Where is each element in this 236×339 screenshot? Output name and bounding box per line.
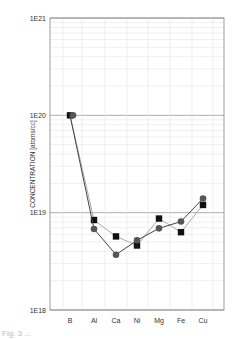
x-tick-label: Ca: [112, 317, 121, 324]
y-axis-label: CONCENTRATION [atoms/cc]: [29, 120, 37, 208]
circle-marker: [178, 218, 185, 225]
y-tick-label: 1E20: [30, 112, 46, 119]
x-tick-label: Ni: [134, 317, 141, 324]
x-tick-label: Al: [91, 317, 98, 324]
circle-marker: [91, 226, 98, 233]
y-tick-label: 1E21: [30, 15, 46, 22]
x-tick-label: Mg: [154, 317, 164, 325]
circle-marker: [113, 251, 120, 258]
x-axis-ticks: BAlCaNiMgFeCu: [68, 317, 208, 325]
y-tick-label: 1E19: [30, 209, 46, 216]
series-line-squares: [70, 115, 203, 245]
circle-marker: [156, 225, 163, 232]
circle-marker: [70, 112, 77, 119]
figure-caption: Fig. 3 ...: [2, 329, 31, 338]
circle-marker: [200, 195, 207, 202]
square-marker: [113, 233, 119, 239]
x-tick-label: Fe: [177, 317, 185, 324]
grid-lines: [50, 18, 224, 310]
x-tick-label: Cu: [199, 317, 208, 324]
y-tick-label: 1E18: [30, 307, 46, 314]
x-tick-label: B: [68, 317, 73, 324]
square-marker: [178, 229, 184, 235]
data-series: [67, 112, 207, 258]
square-marker: [200, 202, 206, 208]
plot-frame: [50, 18, 224, 310]
concentration-chart: 1E181E191E201E21 BAlCaNiMgFeCu CONCENTRA…: [0, 0, 236, 339]
square-marker: [156, 215, 162, 221]
circle-marker: [134, 237, 141, 244]
